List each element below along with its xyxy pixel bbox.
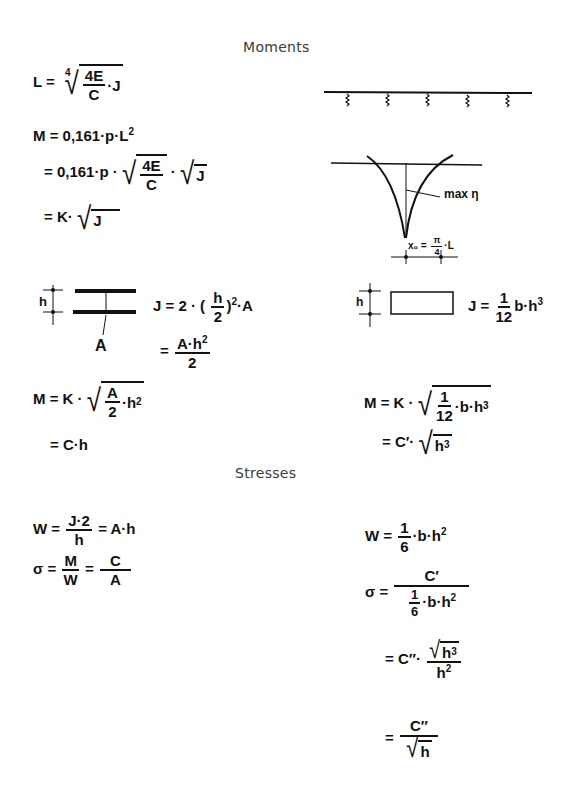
equation-sigma-right-1: σ = C′ 16·b·h2 [365,568,471,618]
equation-M-rect-1: M = K · √ 112·b·h3 [364,385,491,423]
equation-sigma-left: σ = MW = CA [33,553,133,587]
section-label-h-right: h [356,296,363,308]
equation-W-left: W = J·2h = A·h [33,513,136,547]
equation-J-rect: J = 112b·h3 [468,290,543,324]
equation-sigma-right-3: = C″ √h [385,718,440,760]
rectangular-section-diagram [0,0,578,810]
equation-W-right: W = 16·b·h2 [365,520,447,554]
equation-M-rect-2: = C′· √h3 [382,430,452,456]
equation-sigma-right-2: = C″· √h3 h2 [385,640,463,680]
